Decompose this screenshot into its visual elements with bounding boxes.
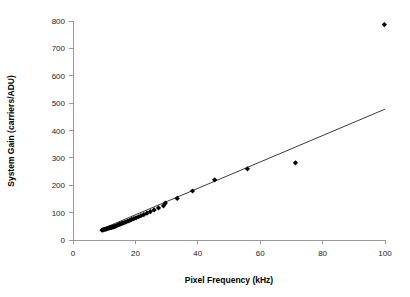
- data-point: [190, 188, 195, 193]
- y-axis-tick-group: [69, 21, 73, 240]
- y-tick-label: 100: [52, 209, 66, 218]
- chart-container: 0100200300400500600700800 020406080100 P…: [0, 0, 410, 297]
- trend-line: [101, 109, 385, 229]
- y-tick-label: 400: [52, 127, 66, 136]
- x-axis-tick-group: [73, 240, 385, 244]
- x-tick-label: 0: [71, 249, 76, 258]
- y-tick-label: 800: [52, 17, 66, 26]
- y-tick-label: 200: [52, 181, 66, 190]
- x-tick-label: 100: [378, 249, 392, 258]
- x-tick-label: 20: [131, 249, 140, 258]
- y-tick-label: 300: [52, 154, 66, 163]
- y-tick-label: 0: [61, 236, 66, 245]
- data-point: [293, 160, 298, 165]
- x-tick-label: 80: [318, 249, 327, 258]
- data-point-group: [99, 22, 387, 233]
- y-tick-label: 500: [52, 99, 66, 108]
- y-tick-label: 600: [52, 72, 66, 81]
- y-axis-title: System Gain (carriers/ADU): [6, 75, 16, 187]
- x-axis-title: Pixel Frequency (kHz): [185, 275, 274, 285]
- x-axis-tick-labels: 020406080100: [71, 249, 392, 258]
- x-tick-label: 40: [193, 249, 202, 258]
- data-point: [382, 22, 387, 27]
- scatter-plot: 0100200300400500600700800 020406080100 P…: [0, 0, 410, 297]
- x-tick-label: 60: [256, 249, 265, 258]
- y-axis-tick-labels: 0100200300400500600700800: [52, 17, 66, 245]
- y-tick-label: 700: [52, 44, 66, 53]
